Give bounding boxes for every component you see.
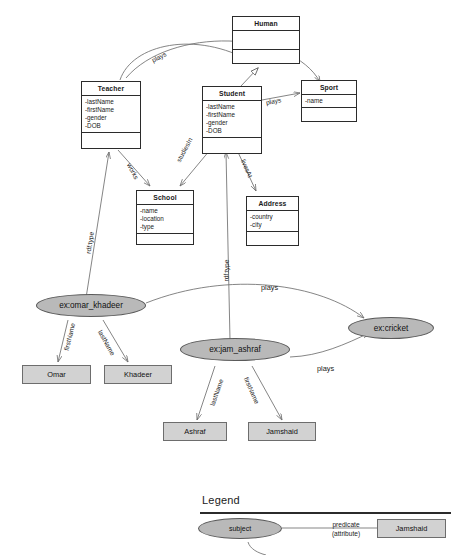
- uml-attribute: -DOB: [205, 127, 259, 135]
- legend-predicate-line1: predicate: [332, 521, 359, 528]
- rdf-literal-jam-lastname[interactable]: Ashraf: [163, 422, 227, 441]
- uml-class-human-attributes: [233, 31, 299, 50]
- uml-class-sport-operations: [302, 108, 356, 119]
- uml-class-school-title: School: [137, 191, 193, 205]
- legend-predicate-line2: (attribute): [332, 530, 360, 537]
- uml-class-teacher-title: Teacher: [82, 82, 140, 96]
- uml-class-student[interactable]: Student -lastName -firstName -gender -DO…: [202, 86, 262, 154]
- uml-class-address-title: Address: [247, 197, 298, 211]
- uml-class-student-title: Student: [203, 87, 261, 101]
- uml-class-school[interactable]: School -name -location -type: [136, 190, 194, 245]
- uml-attribute: -name: [139, 207, 191, 215]
- uml-class-human-title: Human: [233, 17, 299, 31]
- uml-class-address[interactable]: Address -country -city: [246, 196, 299, 246]
- edge-label-jam-rdftype: rdf:type: [223, 259, 230, 281]
- uml-class-student-operations: [203, 138, 261, 149]
- uml-class-school-operations: [137, 234, 193, 245]
- uml-attribute: -gender: [84, 114, 138, 122]
- rdf-literal-jam-firstname[interactable]: Jamshaid: [248, 422, 316, 441]
- uml-class-student-attributes: -lastName -firstName -gender -DOB: [203, 101, 261, 138]
- uml-class-address-attributes: -country -city: [247, 211, 298, 232]
- rdf-literal-omar-firstname[interactable]: Omar: [22, 365, 91, 384]
- legend-predicate-label: predicate (attribute): [311, 521, 381, 539]
- edge-label-student-plays-sport: plays: [265, 96, 281, 106]
- edge-label-omar-firstname: firstName: [63, 322, 77, 351]
- uml-attribute: -country: [249, 213, 296, 221]
- uml-class-teacher[interactable]: Teacher -lastName -firstName -gender -DO…: [81, 81, 141, 149]
- uml-attribute: -firstName: [84, 106, 138, 114]
- legend-object-sample: Jamshaid: [377, 519, 446, 538]
- edge-label-jam-lastname: lastName: [209, 378, 225, 407]
- edge-label-teacher-works-school: works: [126, 162, 140, 180]
- legend-divider: [200, 512, 451, 514]
- edge-layer: [0, 0, 462, 555]
- uml-attribute: -location: [139, 215, 191, 223]
- uml-class-teacher-attributes: -lastName -firstName -gender -DOB: [82, 96, 140, 133]
- edge-label-jam-firstname: firstName: [243, 376, 261, 405]
- uml-attribute: -lastName: [84, 98, 138, 106]
- uml-attribute: -firstName: [205, 111, 259, 119]
- edge-label-student-studiesin-school: studiesIn: [175, 137, 194, 164]
- uml-attribute: -gender: [205, 119, 259, 127]
- legend-title: Legend: [202, 494, 240, 506]
- legend-subject-sample: subject: [198, 518, 282, 539]
- diagram-canvas: Human Teacher -lastName -firstName -gend…: [0, 0, 462, 555]
- uml-attribute: -lastName: [205, 103, 259, 111]
- edge-label-omar-plays-cricket: plays: [261, 283, 278, 292]
- uml-class-human-operations: [233, 50, 299, 61]
- uml-class-sport[interactable]: Sport -name: [301, 80, 357, 122]
- uml-attribute: -name: [304, 97, 354, 105]
- uml-attribute: -city: [249, 221, 296, 229]
- uml-class-sport-title: Sport: [302, 81, 356, 95]
- rdf-subject-omar[interactable]: ex:omar_khadeer: [36, 294, 146, 317]
- uml-class-sport-attributes: -name: [302, 95, 356, 108]
- rdf-subject-cricket[interactable]: ex:cricket: [348, 317, 434, 339]
- edge-label-jam-plays-cricket: plays: [317, 364, 334, 373]
- uml-class-school-attributes: -name -location -type: [137, 205, 193, 234]
- rdf-subject-jam[interactable]: ex:jam_ashraf: [180, 338, 290, 361]
- uml-class-address-operations: [247, 232, 298, 243]
- uml-attribute: -DOB: [84, 122, 138, 130]
- uml-attribute: -type: [139, 223, 191, 231]
- edge-label-teacher-plays-sport: plays: [150, 50, 167, 63]
- uml-class-human[interactable]: Human: [232, 16, 300, 64]
- edge-label-student-livesat-address: livesAt: [240, 158, 254, 179]
- edge-label-omar-rdftype: rdf:type: [85, 231, 95, 254]
- edge-label-omar-lastname: lastName: [97, 329, 117, 357]
- uml-class-teacher-operations: [82, 133, 140, 144]
- rdf-literal-omar-lastname[interactable]: Khadeer: [104, 365, 172, 384]
